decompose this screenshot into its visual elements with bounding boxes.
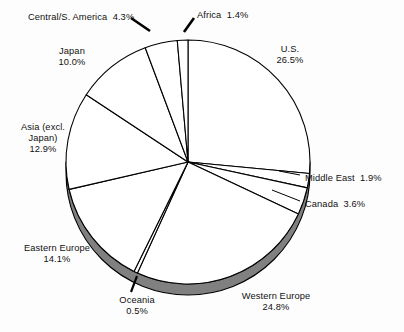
slice-label-us-name: U.S.	[247, 44, 333, 56]
slice-label-middle-east: Middle East 1.9%	[305, 173, 382, 185]
slice-label-canada: Canada 3.6%	[305, 199, 365, 211]
pie-chart-figure: Central/S. America 4.3% Africa 1.4% U.S.…	[0, 0, 404, 332]
slice-label-asia-value: 12.9%	[6, 144, 80, 156]
slice-label-western-europe-value: 24.8%	[222, 302, 330, 314]
slice-label-oceania-name: Oceania	[106, 295, 168, 307]
slice-label-asia-line2: Japan)	[6, 133, 80, 145]
slice-label-asia-line1: Asia (excl.	[6, 122, 80, 134]
slice-label-eastern-europe-value: 14.1%	[5, 254, 109, 266]
slice-label-africa: Africa 1.4%	[197, 10, 248, 22]
slice-label-oceania-value: 0.5%	[106, 306, 168, 318]
slice-label-us-value: 26.5%	[247, 55, 333, 67]
slice-label-eastern-europe-name: Eastern Europe	[5, 243, 109, 255]
slice-label-japan-name: Japan	[35, 46, 109, 58]
leader-line	[184, 18, 194, 32]
slice-label-western-europe-name: Western Europe	[222, 291, 330, 303]
slice-label-central-s-america: Central/S. America 4.3%	[28, 12, 134, 24]
slice-label-japan-value: 10.0%	[35, 57, 109, 69]
